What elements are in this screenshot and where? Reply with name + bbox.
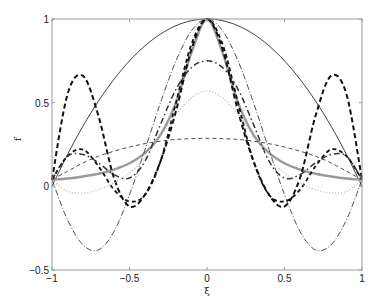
y-tick-label: 0	[43, 181, 49, 192]
y-tick-label: −0.5	[29, 265, 49, 276]
line-chart: −1−0.500.51−0.500.51 ξ f	[0, 0, 379, 307]
x-tick-label: 0.5	[278, 273, 292, 284]
x-tick-label: 1	[359, 273, 365, 284]
y-tick-label: 0.5	[35, 98, 49, 109]
x-tick-label: 0	[204, 273, 210, 284]
y-tick-label: 1	[43, 14, 49, 25]
x-tick-label: −0.5	[120, 273, 140, 284]
x-axis-label: ξ	[204, 285, 210, 296]
